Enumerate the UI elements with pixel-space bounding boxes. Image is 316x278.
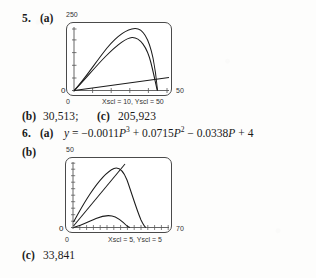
item-6-part-c-label: (c): [22, 249, 35, 261]
item-5-part-b-label: (b): [22, 110, 36, 122]
graph-6b-below-origin-label: 0: [65, 236, 69, 243]
graph-6b-series-ray: [74, 164, 126, 226]
graph-6b-y-max-label: 50: [66, 146, 74, 153]
equation-term2-coef: 0.0715: [142, 127, 174, 139]
equation-operator-3: +: [238, 127, 245, 139]
graph-6b-origin-label: 0: [59, 224, 63, 233]
graph-5a-series-lower-arch: [74, 37, 157, 90]
item-6-equation: y = −0.0011P3 + 0.0715P2 − 0.0338P + 4: [64, 127, 253, 139]
equation-term1-coef: −0.0011: [81, 127, 119, 139]
equation-operator-2: −: [187, 127, 194, 139]
equation-term1-exponent: 3: [126, 125, 130, 134]
equation-term4: 4: [248, 127, 254, 139]
equation-term2-var: P: [174, 127, 181, 139]
item-5-number: 5.: [22, 12, 31, 24]
item-5-part-a-label: (a): [40, 12, 53, 24]
item-6-number: 6.: [22, 127, 31, 139]
equation-operator-1: +: [133, 127, 140, 139]
equation-equals: =: [72, 127, 79, 139]
graph-6b-series-cubic-arch: [74, 168, 146, 228]
graph-5a-scale-note: Xscl = 10, Yscl = 50: [102, 98, 164, 105]
graph-6b-screen: [65, 157, 172, 233]
equation-term2-exponent: 2: [181, 125, 185, 134]
graph-5a-x-max-label: 50: [176, 87, 184, 94]
graph-6b-scale-note: Xscl = 5, Yscl = 5: [108, 236, 162, 243]
graph-5a-plot: [67, 23, 173, 97]
equation-lhs: y: [64, 127, 69, 139]
graph-5a: 250: [62, 11, 180, 109]
item-5-answer-b: 30,513;: [43, 110, 79, 122]
graph-5a-below-origin-label: 0: [66, 98, 70, 105]
item-5-answer-c: 205,923: [118, 110, 156, 122]
item-5-part-c-label: (c): [97, 110, 110, 122]
item-6-part-a-label: (a): [40, 127, 53, 139]
graph-5a-origin-label: 0: [61, 86, 65, 95]
graph-6b-plot: [66, 158, 173, 234]
graph-5a-series-linear: [74, 78, 169, 91]
graph-5a-y-max-label: 250: [66, 11, 78, 18]
equation-term3-coef: 0.0338: [197, 127, 229, 139]
graph-6b: 50: [60, 146, 180, 246]
item-6-answer-c: 33,841: [43, 249, 75, 261]
graph-6b-x-max-label: 70: [176, 225, 184, 232]
graph-6b-series-low-bump: [74, 216, 131, 228]
item-6-part-b-label: (b): [22, 146, 36, 158]
answer-key-page: 5. (a) 250: [0, 0, 316, 278]
graph-5a-screen: [66, 22, 172, 96]
equation-term3-var: P: [228, 127, 235, 139]
